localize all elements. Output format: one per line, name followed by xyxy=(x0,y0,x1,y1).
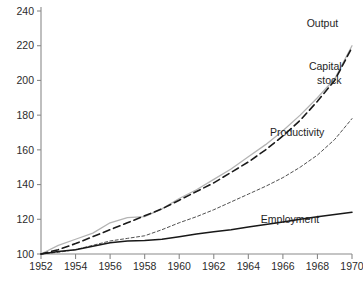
y-tick-label: 240 xyxy=(16,5,34,17)
x-tick-label: 1954 xyxy=(64,260,88,272)
y-tick-label: 200 xyxy=(16,74,34,86)
y-tick-label: 180 xyxy=(16,109,34,121)
series-label: Output xyxy=(307,17,339,29)
x-tick-label: 1962 xyxy=(202,260,226,272)
y-tick-label: 160 xyxy=(16,144,34,156)
series-label: stock xyxy=(317,74,342,86)
y-tick-label: 140 xyxy=(16,178,34,190)
chart-background xyxy=(0,0,363,283)
series-label: Capital xyxy=(309,60,342,72)
x-tick-label: 1964 xyxy=(237,260,261,272)
x-tick-label: 1966 xyxy=(271,260,295,272)
chart-container: 100120140160180200220240 195219541956195… xyxy=(0,0,363,283)
y-tick-label: 220 xyxy=(16,39,34,51)
series-label: Productivity xyxy=(270,126,325,138)
y-tick-label: 120 xyxy=(16,213,34,225)
x-tick-label: 1970 xyxy=(340,260,363,272)
line-chart: 100120140160180200220240 195219541956195… xyxy=(0,0,363,283)
x-tick-label: 1956 xyxy=(98,260,122,272)
x-tick-label: 1958 xyxy=(133,260,157,272)
x-tick-label: 1960 xyxy=(168,260,192,272)
series-label: Employment xyxy=(261,213,319,225)
x-tick-label: 1952 xyxy=(29,260,53,272)
y-tick-label: 100 xyxy=(16,248,34,260)
x-tick-label: 1968 xyxy=(306,260,330,272)
